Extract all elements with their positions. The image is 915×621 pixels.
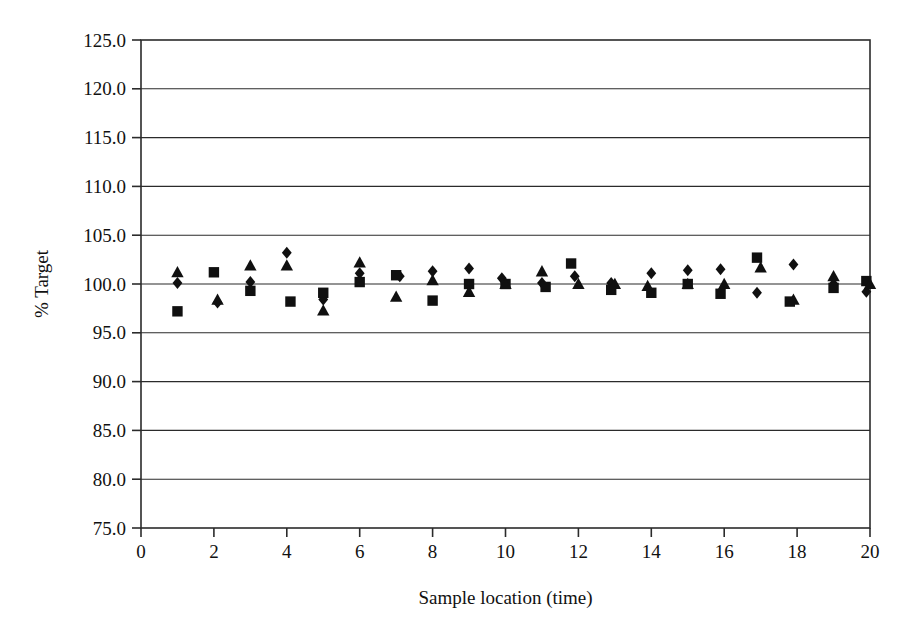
- y-tick-label: 100.0: [83, 274, 126, 295]
- x-tick-label: 16: [715, 541, 734, 562]
- data-point-square: [355, 277, 365, 287]
- x-axis-title: Sample location (time): [418, 587, 592, 609]
- chart-container: 75.080.085.090.095.0100.0105.0110.0115.0…: [0, 0, 915, 621]
- data-point-square: [285, 296, 295, 306]
- y-tick-label: 120.0: [83, 78, 126, 99]
- y-tick-label: 80.0: [93, 469, 126, 490]
- x-tick-label: 20: [861, 541, 880, 562]
- y-tick-label: 75.0: [93, 518, 126, 539]
- data-point-square: [540, 282, 550, 292]
- x-tick-label: 10: [496, 541, 515, 562]
- y-tick-label: 115.0: [84, 127, 126, 148]
- data-point-square: [209, 267, 219, 277]
- data-point-square: [391, 270, 401, 280]
- x-tick-label: 14: [642, 541, 662, 562]
- data-point-square: [245, 286, 255, 296]
- data-point-square: [828, 283, 838, 293]
- y-tick-label: 125.0: [83, 30, 126, 51]
- x-tick-label: 2: [209, 541, 219, 562]
- data-point-square: [427, 295, 437, 305]
- y-axis-title: % Target: [31, 249, 52, 318]
- scatter-chart: 75.080.085.090.095.0100.0105.0110.0115.0…: [0, 0, 915, 621]
- data-point-square: [172, 306, 182, 316]
- y-tick-label: 90.0: [93, 371, 126, 392]
- y-tick-label: 105.0: [83, 225, 126, 246]
- y-tick-label: 110.0: [84, 176, 126, 197]
- y-tick-label: 95.0: [93, 322, 126, 343]
- x-tick-label: 0: [136, 541, 146, 562]
- x-tick-label: 12: [569, 541, 588, 562]
- data-point-square: [566, 258, 576, 268]
- x-tick-label: 8: [428, 541, 438, 562]
- x-tick-label: 4: [282, 541, 292, 562]
- y-tick-label: 85.0: [93, 420, 126, 441]
- x-tick-label: 6: [355, 541, 365, 562]
- x-tick-label: 18: [788, 541, 807, 562]
- data-point-square: [715, 289, 725, 299]
- data-point-square: [318, 288, 328, 298]
